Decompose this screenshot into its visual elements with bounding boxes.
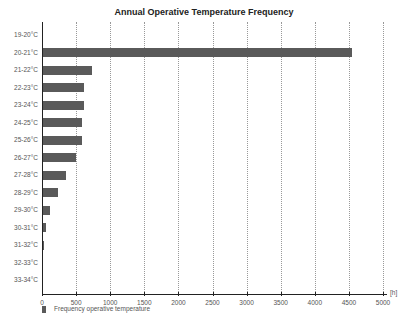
x-tick <box>178 292 179 296</box>
bar <box>42 83 84 92</box>
category-label: 23-24°C <box>0 101 38 108</box>
category-label: 33-34°C <box>0 276 38 283</box>
x-tick <box>76 292 77 296</box>
grid-line <box>76 22 77 294</box>
bar <box>42 48 352 57</box>
category-label: 29-30°C <box>0 206 38 213</box>
grid-line <box>247 22 248 294</box>
x-tick <box>315 292 316 296</box>
category-label: 21-22°C <box>0 66 38 73</box>
x-tick-label: 4000 <box>300 299 330 306</box>
bar <box>42 188 58 197</box>
y-axis <box>42 22 43 295</box>
grid-line <box>213 22 214 294</box>
category-label: 27-28°C <box>0 171 38 178</box>
x-tick-label: 4500 <box>334 299 364 306</box>
grid-line <box>281 22 282 294</box>
x-tick <box>144 292 145 296</box>
x-tick-label: 3500 <box>266 299 296 306</box>
grid-line <box>315 22 316 294</box>
category-label: 22-23°C <box>0 84 38 91</box>
category-label: 25-26°C <box>0 136 38 143</box>
x-tick-label: 2500 <box>198 299 228 306</box>
x-tick <box>42 292 43 296</box>
category-label: 24-25°C <box>0 119 38 126</box>
x-tick-label: 3000 <box>232 299 262 306</box>
category-label: 31-32°C <box>0 241 38 248</box>
category-label: 30-31°C <box>0 224 38 231</box>
legend-swatch <box>42 306 46 313</box>
bar <box>42 101 84 110</box>
legend-label: Frequency operative temperature <box>54 305 150 312</box>
grid-line <box>383 22 384 294</box>
x-tick <box>383 292 384 296</box>
x-tick-label: 0 <box>27 299 57 306</box>
x-tick <box>110 292 111 296</box>
x-tick <box>213 292 214 296</box>
category-label: 28-29°C <box>0 189 38 196</box>
x-axis <box>42 294 387 295</box>
grid-line <box>349 22 350 294</box>
bar <box>42 118 82 127</box>
bar <box>42 66 92 75</box>
category-label: 19-20°C <box>0 31 38 38</box>
x-tick <box>281 292 282 296</box>
x-tick-label: 2000 <box>163 299 193 306</box>
x-axis-unit: [h] <box>390 289 397 296</box>
bar <box>42 136 82 145</box>
bar <box>42 206 50 215</box>
x-tick-label: 5000 <box>368 299 398 306</box>
chart: Annual Operative Temperature Frequency 1… <box>0 0 408 330</box>
grid-line <box>178 22 179 294</box>
bar <box>42 153 76 162</box>
grid-line <box>110 22 111 294</box>
category-label: 20-21°C <box>0 49 38 56</box>
bar <box>42 171 66 180</box>
x-tick <box>349 292 350 296</box>
category-label: 26-27°C <box>0 154 38 161</box>
category-label: 32-33°C <box>0 259 38 266</box>
chart-title: Annual Operative Temperature Frequency <box>0 7 408 17</box>
grid-line <box>144 22 145 294</box>
x-tick <box>247 292 248 296</box>
